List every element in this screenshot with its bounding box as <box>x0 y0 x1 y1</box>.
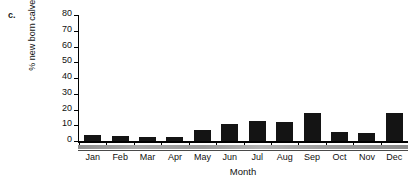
y-axis-tick-label: 70 <box>62 24 72 34</box>
y-axis-tick-label: 30 <box>62 87 72 97</box>
x-axis-label-apr: Apr <box>161 152 188 162</box>
x-axis-label-sep: Sep <box>298 152 325 162</box>
x-axis-label-nov: Nov <box>353 152 380 162</box>
bar-slot <box>353 15 380 141</box>
y-axis-tick-label: 60 <box>62 40 72 50</box>
bar-slot <box>216 15 243 141</box>
bar-slot <box>79 15 106 141</box>
figure-panel-c: c. % new born calves 01020304050607080 J… <box>0 0 414 185</box>
bar-sep <box>304 113 321 141</box>
season-band-underline <box>78 150 408 151</box>
bar-aug <box>276 122 293 141</box>
y-axis-tick-label: 40 <box>62 71 72 81</box>
y-axis-tick-label: 10 <box>62 118 72 128</box>
bar-oct <box>331 132 348 141</box>
y-axis-tick-label: 0 <box>67 134 72 144</box>
x-axis-label-jul: Jul <box>244 152 271 162</box>
panel-label: c. <box>8 10 16 20</box>
bar-slot <box>244 15 271 141</box>
x-axis-label-aug: Aug <box>271 152 298 162</box>
bar-slot <box>189 15 216 141</box>
y-axis-tick-label: 20 <box>62 103 72 113</box>
bar-series <box>79 15 408 141</box>
bar-slot <box>134 15 161 141</box>
x-axis-title: Month <box>78 166 408 177</box>
x-axis-label-jun: Jun <box>216 152 243 162</box>
plot-area: 01020304050607080 JanFebMarAprMayJunJulA… <box>78 15 408 141</box>
x-axis-label-feb: Feb <box>106 152 133 162</box>
bar-dec <box>386 113 403 141</box>
bar-jun <box>221 124 238 141</box>
bar-slot <box>106 15 133 141</box>
bar-slot <box>381 15 408 141</box>
bar-slot <box>326 15 353 141</box>
y-axis-tick-mark <box>74 31 78 32</box>
y-axis-tick-mark <box>74 62 78 63</box>
bar-slot <box>271 15 298 141</box>
y-axis-tick-label: 80 <box>62 8 72 18</box>
season-shading-band <box>78 145 408 149</box>
x-axis-label-mar: Mar <box>134 152 161 162</box>
y-axis-tick-label: 50 <box>62 55 72 65</box>
x-axis-tick-labels: JanFebMarAprMayJunJulAugSepOctNovDec <box>79 152 408 162</box>
x-axis-label-oct: Oct <box>326 152 353 162</box>
x-axis-label-may: May <box>189 152 216 162</box>
bar-slot <box>161 15 188 141</box>
y-axis-tick-mark <box>74 47 78 48</box>
bar-slot <box>298 15 325 141</box>
y-axis-tick-mark <box>74 94 78 95</box>
bar-jul <box>249 121 266 141</box>
y-axis-tick-mark <box>74 125 78 126</box>
y-axis-tick-mark <box>74 78 78 79</box>
bar-nov <box>358 133 375 141</box>
x-axis-label-jan: Jan <box>79 152 106 162</box>
x-axis-label-dec: Dec <box>381 152 408 162</box>
y-axis-tick-mark <box>74 15 78 16</box>
y-axis-title: % new born calves <box>27 0 37 93</box>
bar-may <box>194 130 211 141</box>
y-axis-tick-mark <box>74 110 78 111</box>
